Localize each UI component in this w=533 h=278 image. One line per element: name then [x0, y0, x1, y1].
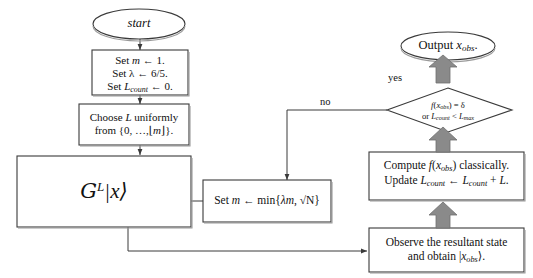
node-start-ellipse [93, 9, 185, 39]
node-observe-box [369, 228, 524, 272]
flowchart-canvas [0, 0, 533, 278]
node-initialize-box [92, 50, 188, 95]
block-arrow-observe-to-compute [429, 202, 457, 228]
node-setm-box [203, 180, 331, 222]
node-choose-box [79, 104, 189, 145]
node-compute-box [369, 152, 524, 200]
flowchart-diagram: start Set m ← 1. Set λ ← 6/5. Set Lcount… [0, 0, 533, 278]
node-condition-diamond [387, 88, 512, 132]
node-output-ellipse [401, 32, 495, 60]
node-grover-box [17, 156, 191, 227]
edge-grover-to-observe [128, 227, 367, 251]
